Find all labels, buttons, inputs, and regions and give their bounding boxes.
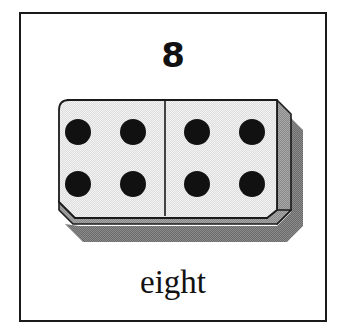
pip xyxy=(239,119,265,145)
word-label: eight xyxy=(19,262,327,302)
pip xyxy=(239,171,265,197)
pip xyxy=(120,119,146,145)
domino-tile xyxy=(45,92,305,252)
pip xyxy=(184,119,210,145)
number-flashcard: 8 xyxy=(0,0,341,336)
domino-graphic xyxy=(45,92,305,252)
pip xyxy=(65,171,91,197)
domino-top-face xyxy=(59,100,277,218)
pip xyxy=(120,171,146,197)
pip xyxy=(184,171,210,197)
numeral-label: 8 xyxy=(19,36,327,74)
domino-right-side-face xyxy=(277,100,291,224)
pip xyxy=(65,119,91,145)
